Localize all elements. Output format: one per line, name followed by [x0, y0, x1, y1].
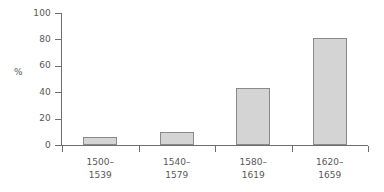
x-tick	[62, 146, 63, 152]
bar	[313, 38, 347, 145]
x-tick-label-line: 1620–	[292, 156, 369, 169]
x-tick-label-line: 1539	[62, 169, 139, 182]
x-tick	[368, 146, 369, 152]
y-tick-label: 60	[11, 61, 51, 70]
y-tick-label: 20	[11, 114, 51, 123]
x-tick-label-line: 1579	[139, 169, 216, 182]
x-tick-label: 1540–1579	[139, 156, 216, 182]
y-tick	[55, 13, 61, 14]
bar-chart: % 020406080100 1500–15391540–15791580–16…	[0, 0, 384, 192]
y-tick-label: 80	[11, 35, 51, 44]
y-tick-label: 100	[11, 9, 51, 18]
y-tick	[55, 39, 61, 40]
y-tick	[55, 66, 61, 67]
y-tick-label: 40	[11, 88, 51, 97]
x-tick-label-line: 1540–	[139, 156, 216, 169]
plot-area	[62, 13, 368, 145]
bar	[160, 132, 194, 145]
x-tick-label: 1500–1539	[62, 156, 139, 182]
x-tick	[139, 146, 140, 152]
y-tick	[55, 145, 61, 146]
y-tick	[55, 119, 61, 120]
y-tick-label: 0	[11, 141, 51, 150]
x-tick-label: 1620–1659	[292, 156, 369, 182]
x-tick-label-line: 1500–	[62, 156, 139, 169]
bar	[83, 137, 117, 145]
x-tick-label: 1580–1619	[215, 156, 292, 182]
x-tick-label-line: 1580–	[215, 156, 292, 169]
y-tick	[55, 92, 61, 93]
x-tick-label-line: 1659	[292, 169, 369, 182]
x-tick	[215, 146, 216, 152]
bar	[236, 88, 270, 145]
x-tick	[292, 146, 293, 152]
x-tick-label-line: 1619	[215, 169, 292, 182]
